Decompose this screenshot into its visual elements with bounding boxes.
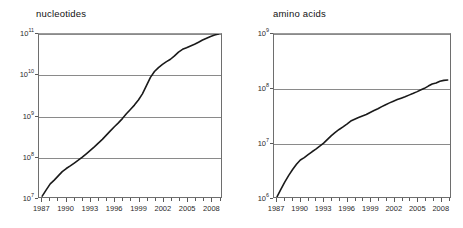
- y-tick-exponent: 10: [28, 68, 34, 74]
- chart-title-amino-acids: amino acids: [273, 8, 326, 19]
- y-axis-tick-label: 107: [239, 139, 269, 148]
- x-axis-tick-minor: [57, 198, 58, 201]
- x-axis-tick-minor: [449, 198, 450, 201]
- x-axis-tick-minor: [98, 198, 99, 201]
- y-axis-tick-label: 107: [6, 194, 34, 203]
- x-axis-tick-minor: [386, 198, 387, 201]
- x-axis-tick-major: [417, 198, 418, 202]
- x-axis-tick-minor: [122, 198, 123, 201]
- x-axis-tick-minor: [292, 198, 293, 201]
- x-axis-tick-minor: [195, 198, 196, 201]
- x-axis-tick-major: [41, 198, 42, 202]
- chart-panel-amino-acids: amino acids 106107108109 198719901993199…: [231, 0, 462, 228]
- x-axis-tick-label: 1999: [130, 204, 147, 213]
- y-axis-tick-label: 106: [239, 194, 269, 203]
- y-tick-exponent: 6: [266, 192, 269, 198]
- plot-frame-nucleotides: [38, 33, 222, 198]
- x-axis-tick-minor: [315, 198, 316, 201]
- x-axis-tick-major: [114, 198, 115, 202]
- y-axis-tick: [270, 88, 273, 89]
- x-axis-tick-minor: [362, 198, 363, 201]
- x-axis-tick-minor: [220, 198, 221, 201]
- x-axis-tick-minor: [425, 198, 426, 201]
- plot-inner-amino-acids: [274, 34, 450, 197]
- x-axis-tick-major: [300, 198, 301, 202]
- y-axis-tick: [270, 143, 273, 144]
- x-axis-tick-major: [323, 198, 324, 202]
- y-axis-tick: [35, 74, 38, 75]
- y-axis-tick-label: 1010: [6, 70, 34, 79]
- chart-panel-nucleotides: nucleotides 10710810910101011 1987199019…: [0, 0, 231, 228]
- x-axis-tick-label: 1990: [291, 204, 308, 213]
- x-axis-tick-label: 1996: [106, 204, 123, 213]
- y-axis-tick: [35, 33, 38, 34]
- y-tick-base: 10: [23, 111, 31, 120]
- y-tick-exponent: 7: [31, 192, 34, 198]
- x-axis-tick-minor: [203, 198, 204, 201]
- y-tick-exponent: 7: [266, 137, 269, 143]
- y-tick-exponent: 9: [31, 110, 34, 116]
- y-axis-tick-label: 109: [6, 111, 34, 120]
- y-tick-base: 10: [23, 194, 31, 203]
- x-axis-tick-major: [163, 198, 164, 202]
- x-axis-tick-minor: [339, 198, 340, 201]
- y-tick-exponent: 11: [28, 27, 34, 33]
- y-axis-tick: [35, 116, 38, 117]
- x-axis-tick-minor: [74, 198, 75, 201]
- y-tick-base: 10: [258, 29, 266, 38]
- y-axis-tick-label: 109: [239, 29, 269, 38]
- x-axis-tick-major: [276, 198, 277, 202]
- x-axis-tick-major: [66, 198, 67, 202]
- y-axis-tick-label: 108: [6, 152, 34, 161]
- x-axis-tick-label: 1993: [315, 204, 332, 213]
- y-tick-exponent: 8: [266, 82, 269, 88]
- x-axis-tick-minor: [331, 198, 332, 201]
- x-axis-tick-major: [441, 198, 442, 202]
- y-axis-tick: [35, 198, 38, 199]
- x-axis-tick-minor: [355, 198, 356, 201]
- y-tick-base: 10: [20, 70, 28, 79]
- y-tick-base: 10: [258, 194, 266, 203]
- x-axis-tick-minor: [284, 198, 285, 201]
- y-tick-base: 10: [258, 139, 266, 148]
- x-axis-tick-minor: [49, 198, 50, 201]
- x-axis-tick-label: 1987: [268, 204, 285, 213]
- x-axis-tick-minor: [409, 198, 410, 201]
- charts-row: nucleotides 10710810910101011 1987199019…: [0, 0, 463, 228]
- x-axis-tick-minor: [308, 198, 309, 201]
- x-axis-tick-minor: [82, 198, 83, 201]
- x-axis-tick-label: 2008: [203, 204, 220, 213]
- x-axis-tick-minor: [106, 198, 107, 201]
- y-tick-base: 10: [23, 152, 31, 161]
- y-axis-tick: [270, 198, 273, 199]
- x-axis-tick-label: 2002: [385, 204, 402, 213]
- y-tick-exponent: 8: [31, 151, 34, 157]
- x-axis-tick-minor: [402, 198, 403, 201]
- x-axis-tick-minor: [171, 198, 172, 201]
- x-axis-tick-major: [139, 198, 140, 202]
- x-axis-tick-minor: [155, 198, 156, 201]
- x-axis-tick-minor: [433, 198, 434, 201]
- x-axis-tick-label: 2005: [179, 204, 196, 213]
- x-axis-tick-minor: [179, 198, 180, 201]
- y-axis-tick: [35, 157, 38, 158]
- y-tick-exponent: 9: [266, 27, 269, 33]
- y-axis-tick-label: 1011: [6, 29, 34, 38]
- x-axis-tick-major: [370, 198, 371, 202]
- x-axis-tick-major: [90, 198, 91, 202]
- x-axis-tick-major: [347, 198, 348, 202]
- x-axis-tick-label: 1996: [338, 204, 355, 213]
- x-axis-tick-label: 2002: [154, 204, 171, 213]
- x-axis-tick-label: 1993: [82, 204, 99, 213]
- y-axis-tick: [270, 33, 273, 34]
- x-axis-tick-major: [394, 198, 395, 202]
- plot-frame-amino-acids: [273, 33, 451, 198]
- plot-inner-nucleotides: [39, 34, 221, 197]
- x-axis-tick-label: 1987: [33, 204, 50, 213]
- x-axis-tick-label: 1990: [57, 204, 74, 213]
- x-axis-tick-label: 1999: [362, 204, 379, 213]
- x-axis-tick-minor: [147, 198, 148, 201]
- curve-amino-acids: [274, 34, 450, 197]
- x-axis-tick-label: 2008: [432, 204, 449, 213]
- y-axis-tick-label: 108: [239, 84, 269, 93]
